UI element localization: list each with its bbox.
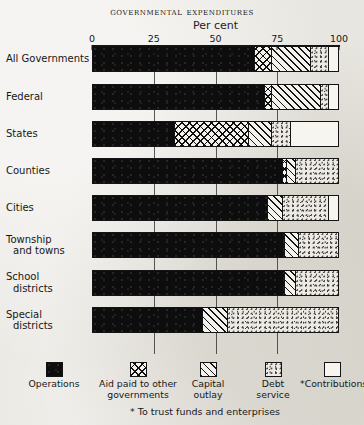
bar-segment-operations [93,122,175,146]
category-label-line: Township [6,234,90,246]
legend-item-debt-service[interactable]: Debtservice [246,362,300,400]
bar-row [92,270,339,296]
bar-segment-aid-paid-to-other-governments [255,47,272,71]
bar-segment-contributions [329,196,338,220]
legend-item-contributions[interactable]: *Contributions [300,362,364,390]
legend-label: governments [92,390,184,401]
bar-segment-debt-service [321,85,330,109]
x-tick-mark [153,45,154,50]
legend-label: Capital [178,379,238,390]
legend-label: Aid paid to other [92,379,184,390]
bar-row [92,232,339,258]
x-tick-label: 75 [271,33,283,44]
legend-swatch-debt-service [265,362,282,377]
category-label-line: districts [6,320,90,332]
x-tick-label: 50 [209,33,221,44]
legend-swatch-contributions [324,362,341,377]
category-label: Cities [6,202,90,214]
bar-segment-operations [93,47,255,71]
legend-label: Debt [246,379,300,390]
category-label: Townshipand towns [6,234,90,257]
category-label: Schooldistricts [6,271,90,294]
bar-row [92,121,339,147]
bar-segment-capital-outlay [272,85,321,109]
category-label-line: Special [6,309,90,321]
bar-segment-capital-outlay [268,196,283,220]
bar-segment-capital-outlay [285,233,298,257]
category-label: Federal [6,91,90,103]
bar-row [92,307,339,333]
bar-segment-aid-paid-to-other-governments [265,85,272,109]
category-label-line: States [6,128,90,140]
category-label-line: Federal [6,91,90,103]
chart-sheet: Governmental Expenditures Per cent 02550… [0,0,364,425]
category-label: Specialdistricts [6,309,90,332]
chart-title: Governmental Expenditures [0,5,364,17]
x-tick-label: 100 [330,33,348,44]
x-tick-mark [215,45,216,50]
category-label-line: School [6,271,90,283]
legend-item-capital-outlay[interactable]: Capitaloutlay [178,362,238,400]
bar-segment-operations [93,196,268,220]
bar-segment-capital-outlay [203,308,228,332]
legend-item-aid-paid-to-other-governments[interactable]: Aid paid to othergovernments [92,362,184,400]
category-label-line: and towns [6,245,90,257]
x-tick-mark [277,45,278,50]
legend-swatch-aid-paid-to-other-governments [130,362,147,377]
category-label-line: districts [6,283,90,295]
x-axis-label: Per cent [92,19,339,32]
bar-segment-operations [93,85,265,109]
chart-legend: OperationsAid paid to othergovernmentsCa… [0,362,364,404]
bar-segment-capital-outlay [285,271,296,295]
bar-segment-contributions [329,47,338,71]
category-label-line: Cities [6,202,90,214]
bar-segment-debt-service [296,159,338,183]
bar-segment-contributions [329,85,338,109]
x-tick-label: 0 [89,33,95,44]
bar-segment-contributions [291,122,338,146]
category-label: States [6,128,90,140]
x-tick-mark [92,45,93,50]
bar-segment-debt-service [311,47,329,71]
bar-row [92,84,339,110]
bar-segment-debt-service [272,122,292,146]
category-label-line: All Governments [6,53,90,65]
chart-footnote: * To trust funds and enterprises [0,406,364,417]
bar-segment-operations [93,308,203,332]
legend-swatch-capital-outlay [200,362,217,377]
bar-segment-capital-outlay [272,47,311,71]
legend-label: service [246,390,300,401]
category-label-line: Counties [6,165,90,177]
bar-segment-operations [93,159,283,183]
bar-segment-capital-outlay [287,159,297,183]
legend-item-operations[interactable]: Operations [18,362,90,390]
legend-swatch-operations [46,362,63,377]
category-label: All Governments [6,53,90,65]
bar-segment-debt-service [228,308,338,332]
x-tick-mark [339,45,340,50]
bar-segment-operations [93,233,285,257]
bar-segment-debt-service [283,196,330,220]
category-label: Counties [6,165,90,177]
bar-row [92,195,339,221]
legend-label: *Contributions [300,379,364,390]
bar-row [92,158,339,184]
bar-segment-capital-outlay [249,122,272,146]
bar-segment-debt-service [296,271,338,295]
bar-segment-debt-service [299,233,338,257]
legend-label: Operations [18,379,90,390]
bar-segment-aid-paid-to-other-governments [175,122,249,146]
plot-area [92,46,339,354]
legend-label: outlay [178,390,238,401]
bar-segment-operations [93,271,285,295]
x-tick-label: 25 [148,33,160,44]
